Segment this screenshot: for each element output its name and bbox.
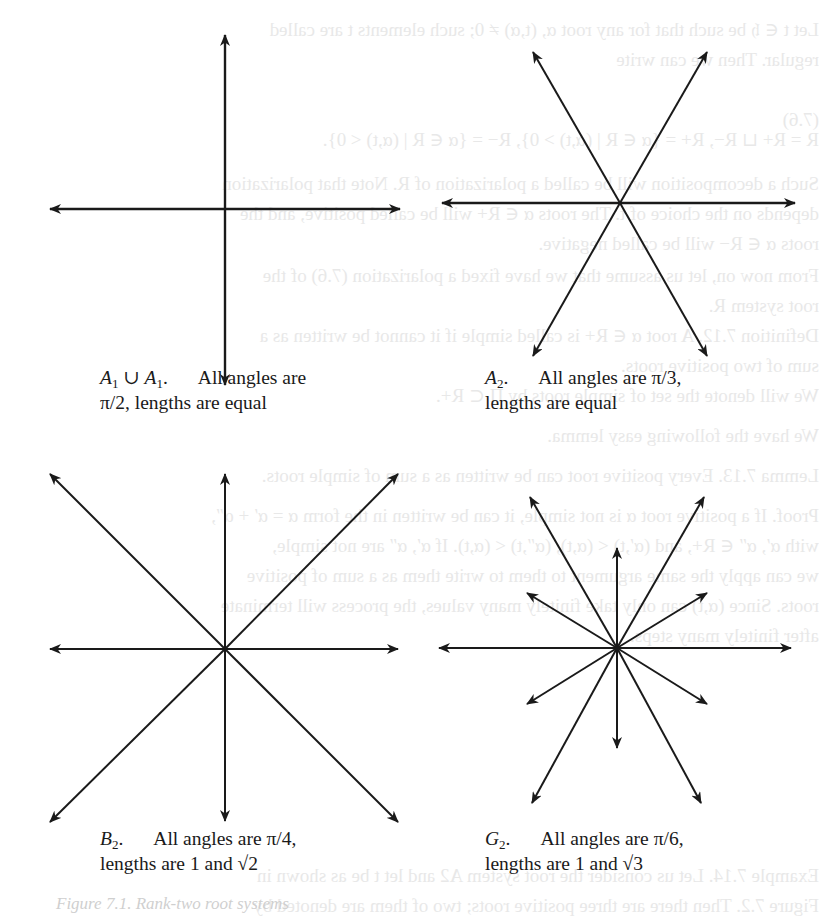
caption-a2: A2.All angles are π/3, lengths are equal (485, 365, 681, 415)
caption-line2: lengths are equal (485, 390, 681, 415)
caption-a1-union-a1: A1 ∪ A1.All angles are π/2, lengths are … (100, 365, 306, 415)
root-vector-arrow (530, 497, 617, 648)
root-vector-arrow (50, 474, 225, 649)
root-vector-arrow (620, 52, 707, 203)
diagram-g2 (439, 497, 791, 803)
figure-caption-faded: Figure 7.1. Rank-two root systems (56, 894, 289, 914)
caption-b2: B2.All angles are π/4, lengths are 1 and… (100, 826, 296, 876)
root-vector-arrow (617, 497, 704, 648)
root-vector-arrow (225, 474, 398, 649)
root-vector-arrow (620, 203, 707, 356)
diagram-a2 (442, 52, 795, 356)
root-vector-arrow (617, 648, 707, 704)
root-vector-arrow (533, 52, 620, 203)
root-vector-arrow (617, 648, 701, 803)
caption-g2: G2.All angles are π/6, lengths are 1 and… (485, 826, 684, 876)
root-vector-arrow (527, 648, 617, 704)
root-vector-arrow (532, 648, 617, 803)
root-vector-arrow (50, 649, 225, 822)
diagram-a1-union-a1 (50, 35, 400, 385)
caption-line2: lengths are 1 and √2 (100, 851, 296, 876)
root-vector-arrow (225, 649, 398, 822)
diagram-b2 (50, 474, 398, 822)
root-vector-arrow (533, 203, 620, 356)
caption-line1: All angles are π/4, (153, 828, 296, 849)
caption-line2: π/2, lengths are equal (100, 390, 306, 415)
root-system-diagrams (0, 0, 839, 917)
root-vector-arrow (617, 593, 707, 648)
caption-line1: All angles are π/3, (538, 367, 681, 388)
caption-line1: All angles are π/6, (540, 828, 683, 849)
root-vector-arrow (527, 593, 617, 648)
caption-line2: lengths are 1 and √3 (485, 851, 684, 876)
caption-line1: All angles are (198, 367, 306, 388)
